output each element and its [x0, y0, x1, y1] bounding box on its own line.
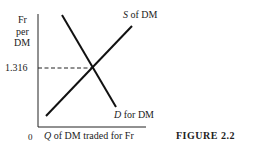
supply-label: S of DM: [123, 10, 157, 20]
chart-canvas: [0, 0, 254, 146]
supply-curve: [46, 26, 132, 116]
origin-label: 0: [28, 132, 33, 142]
demand-curve: [62, 15, 116, 107]
demand-label: D for DM: [114, 110, 154, 120]
y-tick-label: 1.316: [5, 63, 28, 73]
figure-label: FIGURE 2.2: [176, 131, 235, 141]
y-label-1: Fr: [18, 15, 27, 25]
y-label-3: DM: [14, 38, 30, 48]
y-label-2: per: [16, 27, 29, 37]
x-axis-label: Q of DM traded for Fr: [44, 131, 134, 141]
